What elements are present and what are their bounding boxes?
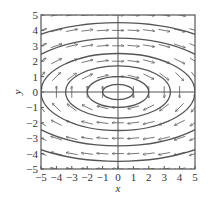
field-arrow <box>128 153 140 154</box>
field-arrow <box>128 138 140 139</box>
x-tick-label: −1 <box>97 171 109 183</box>
axes <box>41 15 195 169</box>
field-arrow <box>144 105 154 110</box>
field-arrow <box>159 121 170 125</box>
field-arrow <box>128 60 140 61</box>
y-tick-label: 0 <box>33 86 39 98</box>
x-tick-label: 5 <box>192 171 198 183</box>
field-arrow <box>82 74 92 79</box>
field-arrow <box>128 45 140 46</box>
field-arrow <box>97 153 109 154</box>
field-arrow <box>82 121 93 124</box>
field-arrow <box>174 59 184 64</box>
y-tick-label: −2 <box>26 117 38 129</box>
y-tick-label: −1 <box>26 101 38 113</box>
field-arrow <box>175 72 183 80</box>
field-arrow <box>66 59 77 63</box>
field-arrow <box>175 103 183 111</box>
field-arrow <box>143 153 155 154</box>
field-arrow <box>174 120 184 125</box>
field-arrow <box>97 30 109 31</box>
field-arrow <box>97 122 109 123</box>
y-tick-label: 1 <box>33 71 39 83</box>
field-arrow <box>81 45 93 47</box>
y-tick-label: 3 <box>33 40 39 52</box>
x-tick-label: 4 <box>177 171 183 183</box>
field-arrow <box>66 29 78 31</box>
field-arrow <box>128 122 140 123</box>
x-tick-label: 1 <box>131 171 137 183</box>
y-tick-label: 5 <box>33 9 39 21</box>
field-arrow <box>159 137 170 140</box>
field-arrow <box>159 59 170 63</box>
field-arrow <box>143 137 155 139</box>
field-arrow <box>97 60 109 61</box>
field-arrow <box>144 74 154 79</box>
field-arrow <box>143 30 155 31</box>
vector-field-plot: −5−4−3−2−1012345−5−4−3−2−1012345 x y <box>0 0 208 209</box>
x-tick-label: 3 <box>161 171 167 183</box>
field-arrow <box>82 105 92 110</box>
tick-labels: −5−4−3−2−1012345−5−4−3−2−1012345 <box>26 9 198 183</box>
field-arrow <box>97 138 109 139</box>
field-arrow <box>82 60 93 63</box>
x-tick-label: 2 <box>146 171 152 183</box>
field-arrow <box>81 153 93 154</box>
field-arrow <box>66 44 77 47</box>
field-arrow <box>143 60 154 63</box>
y-tick-label: 2 <box>33 55 39 67</box>
field-arrow <box>81 30 93 31</box>
field-arrow <box>128 30 140 31</box>
y-tick-label: −5 <box>26 163 38 175</box>
field-arrow <box>143 45 155 47</box>
field-arrow <box>158 29 170 31</box>
field-arrow <box>158 153 170 155</box>
x-axis-label: x <box>115 182 121 194</box>
x-tick-label: −3 <box>66 171 78 183</box>
field-arrow <box>159 44 170 47</box>
y-tick-label: 4 <box>33 24 39 36</box>
field-arrow <box>66 121 77 125</box>
field-arrow <box>52 103 60 111</box>
field-arrow <box>52 72 60 80</box>
field-arrow <box>66 153 78 155</box>
field-arrow <box>97 45 109 46</box>
field-arrow <box>143 121 154 124</box>
x-tick-label: −2 <box>81 171 93 183</box>
field-arrow <box>66 137 77 140</box>
y-axis-label: y <box>11 89 23 95</box>
y-tick-label: −3 <box>26 132 38 144</box>
y-tick-label: −4 <box>26 148 38 160</box>
field-arrow <box>51 59 61 64</box>
field-arrow <box>81 137 93 139</box>
field-arrow <box>51 120 61 125</box>
x-tick-label: −4 <box>51 171 63 183</box>
